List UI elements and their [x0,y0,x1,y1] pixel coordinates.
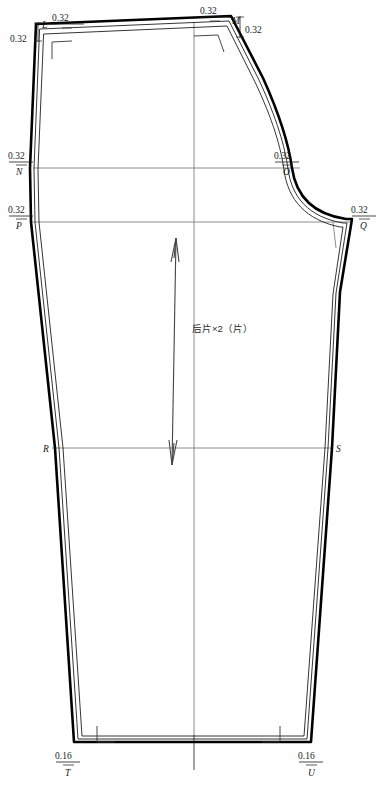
pattern-drawing: 0.32 0.32 0.32 0.32 0.32 0.32 0.32 0.32 … [0,0,381,786]
corner-mark-top-right [194,35,224,52]
point-label-Q: Q [360,221,367,231]
dimension-L-top: 0.32 [52,13,69,23]
dimension-M-right: 0.32 [245,25,262,35]
pattern-sheet: 0.32 0.32 0.32 0.32 0.32 0.32 0.32 0.32 … [0,0,381,786]
dimension-P: 0.32 [8,205,25,215]
grain-line-marker [169,238,179,465]
grain-line-shaft [172,238,176,465]
piece-name-label: 后片×2（片） [192,323,253,334]
seam-lines [34,21,347,739]
point-label-L: L [41,20,47,30]
point-label-T: T [65,768,71,778]
point-label-U: U [308,768,316,778]
point-label-R: R [42,444,49,454]
seam-line-inner-1 [34,21,347,739]
point-label-M: M [231,16,241,26]
dimension-M-top: 0.32 [200,6,217,16]
construction-lines [31,22,350,770]
point-label-P: P [15,221,22,231]
point-label-O: O [283,167,290,177]
dimension-L-left: 0.32 [10,34,27,44]
point-label-N: N [15,167,23,177]
dimension-Q: 0.32 [351,205,368,215]
point-label-S: S [336,444,341,454]
dimension-U: 0.16 [298,751,315,761]
corner-mark-bottom-right [262,726,280,742]
seam-line-inner-2 [38,26,343,736]
corner-mark-bottom-left [97,726,115,742]
dimension-N: 0.32 [8,151,25,161]
cutting-line-outline [30,16,352,742]
dimension-T: 0.16 [55,751,72,761]
dimension-O: 0.32 [274,151,291,161]
corner-mark-top-left [52,41,72,59]
right-angle-marks [52,35,280,742]
dimension-rules [9,16,376,765]
